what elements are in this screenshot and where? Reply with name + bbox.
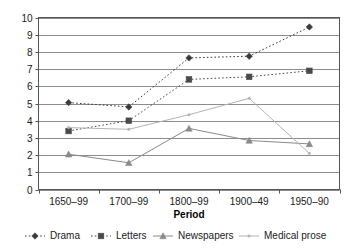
legend-label: Drama [50,230,80,241]
legend-label: Newspapers [178,230,234,241]
y-axis-tick-label: 3 [27,133,33,144]
y-axis-tick-label: 6 [27,81,33,92]
data-point-marker [246,74,252,80]
data-point-marker [307,68,313,74]
line-chart: 012345678910 1650–991700–991800–991900–4… [0,0,356,251]
x-axis-tick-label: 1700–99 [109,196,148,207]
y-axis-tick-label: 4 [27,116,33,127]
x-axis-tick-label: 1900–49 [230,196,269,207]
data-point-marker [67,126,70,129]
data-point-marker [248,97,251,100]
y-axis-tick-label: 1 [27,167,33,178]
data-point-marker [128,128,131,131]
legend-label: Medical prose [264,230,327,241]
x-axis-tick-label: 1950–90 [290,196,329,207]
legend-marker-icon [248,235,251,238]
legend-marker-icon [98,233,104,239]
x-axis-title: Period [173,209,204,220]
y-axis-tick-label: 8 [27,47,33,58]
chart-canvas: 012345678910 1650–991700–991800–991900–4… [0,0,356,251]
legend-label: Letters [116,230,147,241]
x-axis-tick-label: 1800–99 [170,196,209,207]
y-axis-tick-label: 0 [27,185,33,196]
y-axis-tick-label: 9 [27,30,33,41]
data-point-marker [126,118,132,124]
data-point-marker [186,77,192,83]
y-axis-tick-label: 5 [27,99,33,110]
y-axis-tick-label: 10 [21,13,33,24]
y-axis-tick-label: 2 [27,150,33,161]
data-point-marker [188,113,191,116]
data-point-marker [308,152,311,155]
x-axis-tick-label: 1650–99 [49,196,88,207]
y-axis-tick-label: 7 [27,64,33,75]
